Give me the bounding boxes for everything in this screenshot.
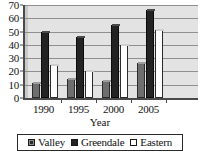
x-axis-tick-label: 1995 [68, 103, 89, 115]
bar-group [133, 5, 168, 98]
bar-cap [103, 80, 111, 82]
y-axis-tick [20, 18, 23, 19]
bar-group [63, 5, 98, 98]
bar-cap [121, 44, 129, 46]
bar-greendale-2000 [111, 25, 119, 98]
bar-groups [25, 5, 198, 98]
bar-group [98, 5, 133, 98]
legend-swatch-valley-icon [28, 139, 35, 146]
bar-cap [86, 70, 94, 72]
bar-group [28, 5, 63, 98]
y-axis-tick [20, 44, 23, 45]
x-axis-tick-label: 2000 [103, 103, 124, 115]
legend-label-greendale: Greendale [81, 137, 124, 148]
bar-eastern-1995 [85, 71, 93, 98]
bar-cap [42, 31, 50, 33]
bar-cap [147, 9, 155, 11]
plot-wrapper: 010203040506070 1990199520002005 [0, 0, 200, 110]
bar-eastern-2000 [120, 45, 128, 98]
bar-valley-1995 [67, 79, 75, 98]
y-axis-tick-label: 20 [9, 66, 19, 77]
legend-item-eastern: Eastern [130, 137, 172, 148]
x-axis-title: Year [0, 116, 200, 128]
y-axis-tick-label: 30 [9, 53, 19, 64]
bar-cap [68, 78, 76, 80]
bar-greendale-1990 [41, 32, 49, 98]
y-axis-tick [20, 98, 23, 99]
legend-swatch-eastern-icon [130, 139, 137, 146]
y-axis-tick [20, 31, 23, 32]
bar-greendale-2005 [146, 10, 154, 98]
bar-cap [112, 24, 120, 26]
x-axis-tick-label: 2005 [138, 103, 159, 115]
bar-cap [156, 29, 164, 31]
bar-valley-1990 [32, 83, 40, 98]
bar-eastern-2005 [155, 30, 163, 98]
legend-item-valley: Valley [28, 137, 65, 148]
bar-cap [51, 64, 59, 66]
y-axis-tick-label: 0 [14, 93, 19, 104]
y-axis-tick [20, 58, 23, 59]
y-axis-tick [20, 84, 23, 85]
plot-area [23, 5, 198, 100]
bar-cap [77, 36, 85, 38]
bar-chart: 010203040506070 1990199520002005 Year Va… [0, 0, 200, 154]
plot-inner [25, 5, 198, 98]
bar-cap [138, 62, 146, 64]
bar-valley-2000 [102, 81, 110, 98]
chart-legend: Valley Greendale Eastern [17, 134, 183, 151]
y-axis-tick-label: 40 [9, 39, 19, 50]
bar-cap [33, 82, 41, 84]
x-axis-tick-label: 1990 [33, 103, 54, 115]
legend-item-greendale: Greendale [71, 137, 124, 148]
y-axis-tick-label: 50 [9, 26, 19, 37]
y-axis-tick [20, 71, 23, 72]
y-axis-tick-label: 70 [9, 0, 19, 11]
bar-greendale-1995 [76, 37, 84, 98]
bar-valley-2005 [137, 63, 145, 98]
bar-eastern-1990 [50, 65, 58, 98]
y-axis-labels: 010203040506070 [0, 0, 20, 110]
x-axis-labels: 1990199520002005 [0, 103, 200, 117]
y-axis-tick-label: 10 [9, 79, 19, 90]
legend-swatch-greendale-icon [71, 139, 78, 146]
legend-label-eastern: Eastern [140, 137, 172, 148]
y-axis-tick [20, 5, 23, 6]
legend-label-valley: Valley [38, 137, 65, 148]
y-axis-tick-label: 60 [9, 13, 19, 24]
